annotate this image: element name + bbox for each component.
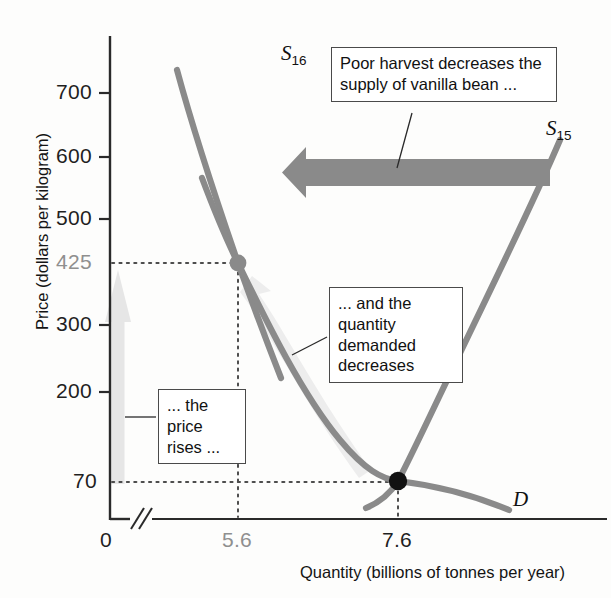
curve-label-supply-new: S16	[281, 41, 307, 68]
x-tick-5-6: 5.6	[222, 528, 252, 552]
y-tick-700: 700	[56, 80, 92, 104]
price-callout-line3: rises ...	[167, 437, 237, 458]
harvest-callout-line2: supply of vanilla bean ...	[340, 74, 548, 95]
equilibrium-dot-new	[230, 255, 247, 272]
y-tick-300: 300	[56, 312, 92, 336]
quantity-callout-line4: decreases	[338, 355, 454, 376]
y-tick-500: 500	[56, 206, 92, 230]
price-callout-line2: price	[167, 416, 237, 437]
y-tick-70: 70	[73, 469, 97, 493]
quantity-callout-line1: ... and the	[338, 293, 454, 314]
x-tick-7-6: 7.6	[382, 528, 412, 552]
curve-label-supply-original-sub: 15	[557, 128, 572, 143]
curve-label-supply-original-letter: S	[546, 116, 557, 140]
quantity-callout-line2: quantity	[338, 314, 454, 335]
curve-label-demand: D	[513, 487, 528, 512]
supply-shift-arrow	[282, 147, 550, 198]
curve-label-supply-new-letter: S	[281, 41, 292, 65]
quantity-callout-line3: demanded	[338, 335, 454, 356]
price-callout: ... the price rises ...	[158, 389, 246, 464]
curve-label-supply-original: S15	[546, 116, 572, 143]
harvest-callout-line1: Poor harvest decreases the	[340, 53, 548, 74]
quantity-callout: ... and the quantity demanded decreases	[329, 287, 463, 383]
curve-label-supply-new-sub: 16	[292, 53, 307, 68]
curve-supply-new	[177, 70, 281, 378]
y-tick-200: 200	[56, 379, 92, 403]
y-tick-425: 425	[56, 250, 92, 274]
y-axis-title: Price (dollars per kilogram)	[33, 112, 52, 352]
y-tick-0: 0	[100, 528, 112, 552]
supply-demand-chart: 700 600 500 425 300 200 70 0 5.6 7.6 Pri…	[0, 0, 611, 598]
price-callout-line1: ... the	[167, 395, 237, 416]
y-axis-ticks	[99, 93, 110, 392]
y-tick-600: 600	[56, 144, 92, 168]
harvest-callout: Poor harvest decreases the supply of van…	[331, 47, 557, 102]
x-axis-title: Quantity (billions of tonnes per year)	[300, 563, 565, 582]
equilibrium-dot-original	[389, 472, 407, 490]
